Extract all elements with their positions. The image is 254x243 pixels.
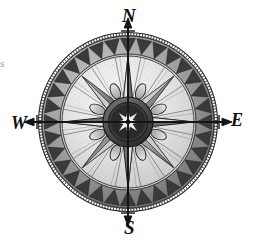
compass-rose-illustration <box>0 0 254 243</box>
cropped-edge-glyph: s <box>0 58 6 69</box>
cardinal-label-south: S <box>124 218 135 237</box>
cardinal-label-east: E <box>231 111 243 129</box>
compass-rose-figure: N E S W s <box>0 0 254 243</box>
cardinal-needles <box>24 18 232 226</box>
cardinal-label-west: W <box>11 114 27 132</box>
cardinal-label-north: N <box>122 6 136 25</box>
